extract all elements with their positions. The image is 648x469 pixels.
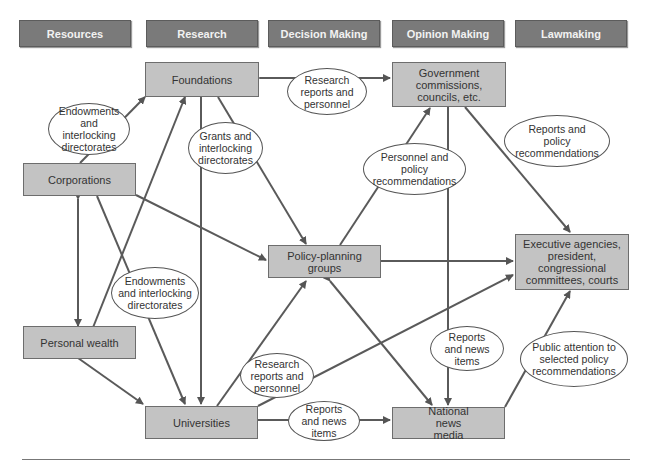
header-decision-making: Decision Making xyxy=(268,20,380,47)
node-government: Government commissions, councils, etc. xyxy=(392,62,506,107)
label-corp-found: Endowments and interlocking directorates xyxy=(48,103,130,155)
node-universities: Universities xyxy=(145,406,258,439)
node-foundations: Foundations xyxy=(145,62,259,97)
label-gov-media: Reports and news items xyxy=(430,326,504,371)
label-gov-exec: Reports and policy recommendations xyxy=(504,115,610,167)
bottom-rule xyxy=(22,459,630,460)
label-media-exec: Public attention to selected policy reco… xyxy=(520,331,628,387)
node-personal-wealth: Personal wealth xyxy=(23,326,136,359)
label-found-policy: Grants and interlocking directorates xyxy=(188,122,263,174)
label-univ-media: Reports and news items xyxy=(288,401,360,441)
node-executive: Executive agencies, president, congressi… xyxy=(515,234,629,290)
header-lawmaking: Lawmaking xyxy=(515,20,627,47)
node-policy-planning: Policy-planning groups xyxy=(268,245,381,278)
label-found-gov: Research reports and personnel xyxy=(287,68,367,115)
label-univ-policy: Research reports and personnel xyxy=(240,353,314,398)
label-corp-univ: Endowments and interlocking directorates xyxy=(111,267,199,319)
node-corporations: Corporations xyxy=(23,163,136,196)
label-policy-gov: Personnel and policy recommendations xyxy=(363,143,466,195)
header-opinion-making: Opinion Making xyxy=(392,20,504,47)
node-news-media: National news media xyxy=(392,407,505,439)
header-resources: Resources xyxy=(19,20,131,47)
header-research: Research xyxy=(146,20,258,47)
